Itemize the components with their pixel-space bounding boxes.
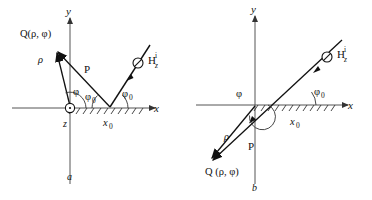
panel-a-phi0-inner-label: φ 0 bbox=[85, 91, 96, 105]
panel-b-x-axis-label: x bbox=[347, 99, 353, 111]
panel-b-source-point-label: Q (ρ, φ) bbox=[205, 166, 239, 178]
svg-text:i: i bbox=[344, 45, 346, 54]
panel-a-caption: a bbox=[67, 171, 72, 182]
panel-a-origin-marker-icon bbox=[65, 103, 74, 112]
panel-b-circled-slash-icon bbox=[322, 52, 332, 62]
svg-text:φ: φ bbox=[314, 86, 320, 97]
panel-a-origin-z-label: z bbox=[62, 118, 67, 129]
svg-text:z: z bbox=[343, 55, 347, 64]
svg-text:x: x bbox=[289, 116, 295, 127]
panel-b-caption: b bbox=[252, 182, 257, 193]
svg-text:0: 0 bbox=[296, 121, 300, 130]
panel-a-y-axis-label: y bbox=[65, 5, 71, 17]
svg-text:x: x bbox=[102, 117, 108, 128]
panel-a-incident-field-label: H z i bbox=[148, 51, 158, 70]
panel-a-reflected-ray-P bbox=[58, 52, 110, 107]
svg-text:0: 0 bbox=[92, 96, 96, 105]
panel-b-incident-field-label: H z i bbox=[337, 45, 347, 64]
panel-a-phi-label: φ bbox=[73, 86, 79, 97]
panel-a-P-label: P bbox=[84, 63, 90, 75]
svg-text:φ: φ bbox=[85, 91, 91, 102]
panel-a-source-point-label: Q(ρ, φ) bbox=[20, 28, 52, 40]
panel-a-rho-vector bbox=[57, 53, 70, 106]
panel-a-circled-slash-icon bbox=[133, 58, 143, 68]
panel-a-ground-hatching bbox=[69, 108, 143, 114]
panel-a-phi0-outer-label: φ 0 bbox=[122, 88, 133, 102]
panel-b-y-axis-label: y bbox=[250, 3, 256, 15]
svg-text:0: 0 bbox=[321, 91, 325, 100]
svg-text:i: i bbox=[155, 51, 157, 60]
panel-b-rho-label: ρ bbox=[223, 131, 229, 142]
panel-a-x0-label: x 0 bbox=[102, 117, 113, 131]
panel-b-P-label: P bbox=[248, 140, 254, 152]
panel-b-phi-label: φ bbox=[236, 88, 242, 99]
panel-b-incident-ray-arrowhead bbox=[313, 66, 321, 73]
panel-b: x y φ φ 0 x 0 ρ P Q (ρ, φ) H z i b bbox=[196, 3, 353, 193]
panel-b-x0-label: x 0 bbox=[289, 116, 300, 130]
svg-text:z: z bbox=[154, 61, 158, 70]
svg-text:0: 0 bbox=[109, 122, 113, 131]
panel-b-phi0-label: φ 0 bbox=[314, 86, 325, 100]
figure-canvas: x y Q(ρ, φ) ρ P φ φ 0 φ 0 z x 0 H z i a bbox=[0, 0, 372, 200]
svg-text:0: 0 bbox=[129, 93, 133, 102]
panel-a-x-axis-label: x bbox=[153, 102, 159, 114]
panel-a: x y Q(ρ, φ) ρ P φ φ 0 φ 0 z x 0 H z i a bbox=[12, 5, 159, 184]
svg-text:φ: φ bbox=[122, 88, 128, 99]
panel-a-rho-label: ρ bbox=[37, 54, 43, 65]
diagram-svg: x y Q(ρ, φ) ρ P φ φ 0 φ 0 z x 0 H z i a bbox=[0, 0, 372, 200]
